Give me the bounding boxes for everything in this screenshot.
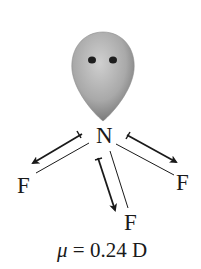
central-atom-label: N <box>96 123 113 148</box>
bond-line-right <box>116 144 174 175</box>
dipole-value: = 0.24 D <box>68 238 148 262</box>
lone-pair-lobe <box>72 32 134 121</box>
fluorine-label-left: F <box>17 173 30 198</box>
bond-line-left <box>36 143 89 173</box>
nf3-dipole-diagram: N F F F μ = 0.24 D <box>0 0 201 269</box>
fluorine-label-bottom: F <box>124 210 137 235</box>
fluorine-label-right: F <box>176 170 189 195</box>
bond-line-bottom <box>110 151 128 208</box>
dipole-arrow-left <box>33 131 82 163</box>
lone-pair-electron-icon <box>109 56 117 63</box>
dipole-arrow-right <box>126 132 176 162</box>
dipole-moment-caption: μ = 0.24 D <box>56 238 147 262</box>
lone-pair-electron-icon <box>88 56 96 63</box>
dipole-arrow-bottom <box>95 158 115 210</box>
mu-symbol: μ <box>56 238 68 262</box>
